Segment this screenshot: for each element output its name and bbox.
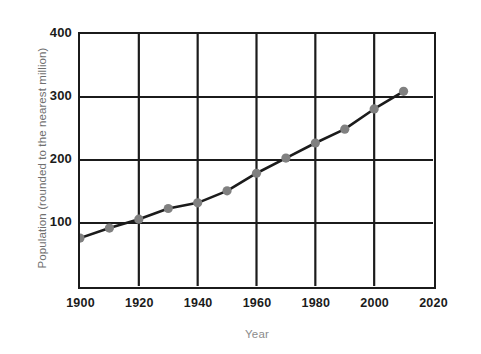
data-point: [370, 104, 379, 113]
population-line-chart: Population (rounded to the nearest milli…: [0, 0, 481, 354]
y-tick-label: 400: [10, 25, 72, 40]
grid-lines: [80, 34, 433, 286]
data-point: [252, 169, 261, 178]
data-point: [281, 154, 290, 163]
x-tick-label: 1920: [109, 296, 169, 310]
plot-svg: [80, 34, 433, 286]
y-tick-label: 200: [10, 151, 72, 166]
x-tick-label: 2020: [404, 296, 464, 310]
x-axis-tick-labels: 1900192019401960198020002020: [78, 296, 436, 318]
x-tick-label: 1980: [286, 296, 346, 310]
plot-area: [78, 32, 436, 289]
data-point: [193, 198, 202, 207]
y-axis-tick-labels: 100200300400: [8, 32, 72, 289]
y-tick-label: 300: [10, 88, 72, 103]
x-axis-title: Year: [78, 328, 436, 340]
data-point: [164, 204, 173, 213]
x-tick-label: 1900: [51, 296, 111, 310]
data-point: [105, 223, 114, 232]
y-tick-label: 100: [10, 214, 72, 229]
data-point: [134, 215, 143, 224]
population-line: [80, 91, 404, 238]
x-tick-label: 2000: [345, 296, 405, 310]
population-data-points: [80, 87, 408, 243]
data-point: [399, 87, 408, 96]
data-point: [340, 125, 349, 134]
x-tick-label: 1960: [227, 296, 287, 310]
data-point: [222, 186, 231, 195]
x-tick-label: 1940: [168, 296, 228, 310]
data-point: [311, 138, 320, 147]
data-point: [80, 234, 85, 243]
